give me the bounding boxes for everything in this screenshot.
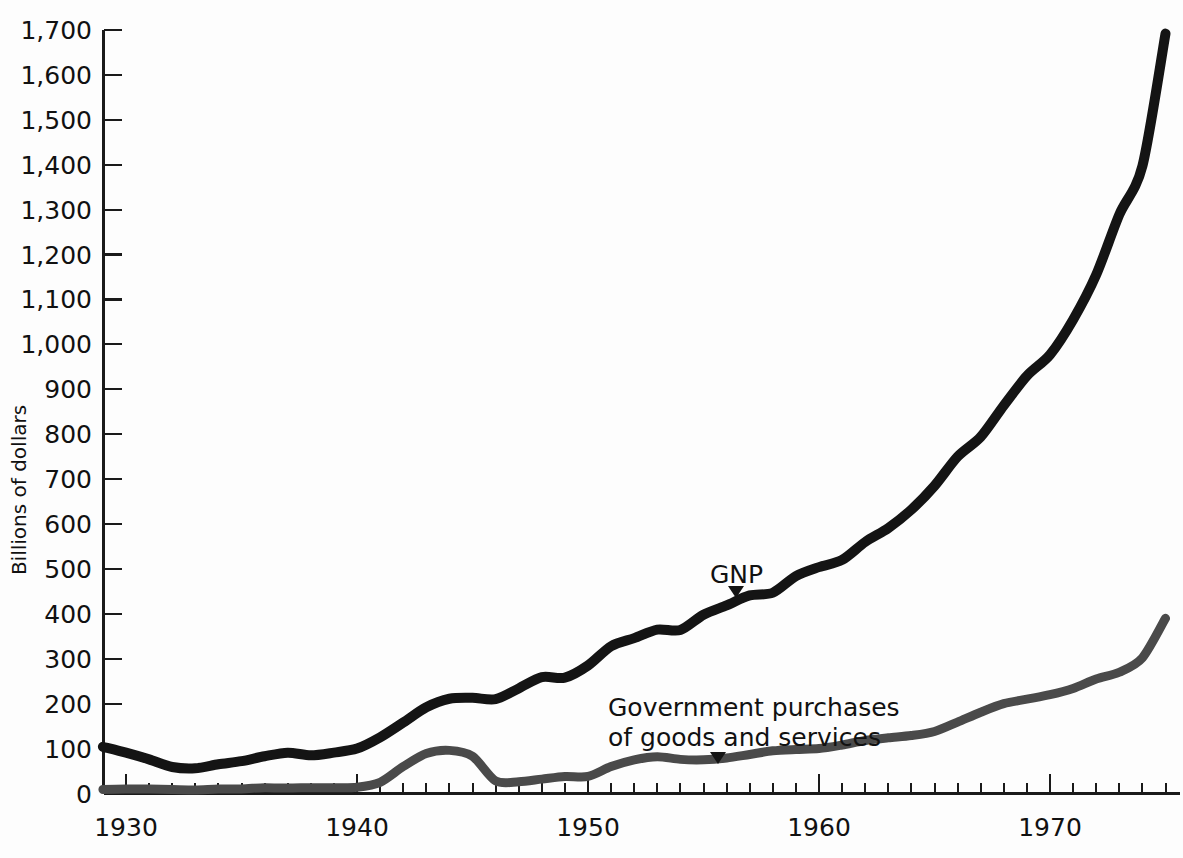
y-axis-tick-label: 900 (44, 375, 92, 404)
y-axis-tick-label: 1,200 (20, 241, 92, 270)
y-axis-tick-label: 300 (44, 645, 92, 674)
y-axis-tick-label: 1,700 (20, 16, 92, 45)
y-axis-tick-label: 1,400 (20, 151, 92, 180)
y-axis-tick-label: 400 (44, 600, 92, 629)
series-line-gnp (103, 34, 1166, 769)
data-series-group (103, 34, 1166, 790)
y-axis-tick-label: 1,300 (20, 196, 92, 225)
y-axis-tick-labels: 01002003004005006007008009001,0001,1001,… (20, 16, 92, 809)
y-axis (104, 30, 122, 793)
y-axis-tick-label: 1,100 (20, 285, 92, 314)
y-axis-title-group: Billions of dollars (7, 405, 31, 575)
x-axis-tick-label: 1970 (1018, 813, 1082, 842)
x-axis-tick-label: 1950 (556, 813, 620, 842)
x-axis-tick-label: 1930 (94, 813, 158, 842)
annotation-gnp-label: GNP (710, 560, 763, 589)
x-axis-tick-label: 1960 (787, 813, 851, 842)
annotation-government-label-line2: of goods and services (608, 723, 881, 752)
y-axis-tick-label: 1,600 (20, 61, 92, 90)
x-axis-tick-label: 1940 (325, 813, 389, 842)
y-axis-tick-label: 0 (76, 780, 92, 809)
y-axis-tick-label: 600 (44, 510, 92, 539)
annotation-government-label-line1: Government purchases (608, 693, 900, 722)
x-axis-tick-labels: 19301940195019601970 (94, 813, 1082, 842)
y-axis-tick-label: 200 (44, 690, 92, 719)
y-axis-tick-label: 500 (44, 555, 92, 584)
y-axis-tick-label: 1,500 (20, 106, 92, 135)
y-axis-tick-label: 800 (44, 420, 92, 449)
y-axis-tick-label: 100 (44, 735, 92, 764)
line-chart-canvas: Billions of dollars 01002003004005006007… (0, 0, 1183, 858)
chart-figure: Billions of dollars 01002003004005006007… (0, 0, 1183, 858)
y-axis-title: Billions of dollars (7, 405, 31, 575)
y-axis-tick-label: 700 (44, 465, 92, 494)
y-axis-tick-label: 1,000 (20, 330, 92, 359)
